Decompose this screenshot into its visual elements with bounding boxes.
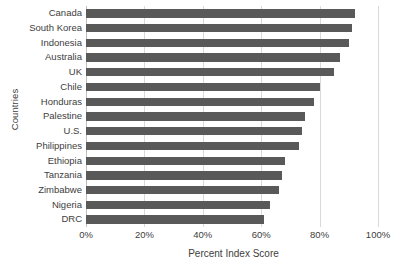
bar [86,39,349,47]
x-axis-tick-labels: 0%20%40%60%80%100% [0,229,403,243]
bar-row [86,6,378,21]
bar [86,215,264,223]
y-axis-tick-label: Zimbabwe [0,185,82,195]
y-axis-tick-label: U.S. [0,126,82,136]
bar [86,142,299,150]
y-axis-tick-label: Canada [0,8,82,18]
plot-area [86,6,378,227]
x-axis-tick-label: 100% [355,229,401,240]
y-axis-tick-label: DRC [0,214,82,224]
y-axis-tick-label: South Korea [0,23,82,33]
x-axis-tick-label: 60% [238,229,284,240]
bar-row [86,212,378,227]
gridline-100 [378,6,379,227]
bar-row [86,21,378,36]
y-axis-tick-label: Nigeria [0,200,82,210]
bar-row [86,65,378,80]
bar [86,53,340,61]
bar-row [86,183,378,198]
y-axis-tick-label: Indonesia [0,38,82,48]
bar-chart: Countries CanadaSouth KoreaIndonesiaAust… [0,0,403,273]
bar-row [86,168,378,183]
bar-row [86,50,378,65]
bar-row [86,153,378,168]
x-axis-title: Percent Index Score [0,248,403,259]
bar [86,9,355,17]
bar [86,112,305,120]
bar-row [86,80,378,95]
bar [86,201,270,209]
x-axis-tick-label: 20% [121,229,167,240]
x-axis-tick-label: 0% [63,229,109,240]
bar [86,98,314,106]
bar-row [86,109,378,124]
x-axis-tick-label: 80% [297,229,343,240]
bar [86,171,282,179]
bar [86,83,320,91]
x-axis-tick-label: 40% [180,229,226,240]
bar-row [86,139,378,154]
bar [86,24,352,32]
bar [86,68,334,76]
bar-row [86,124,378,139]
y-axis-tick-label: Chile [0,82,82,92]
y-axis-tick-label: Philippines [0,141,82,151]
y-axis-tick-labels: CanadaSouth KoreaIndonesiaAustraliaUKChi… [0,6,82,227]
y-axis-tick-label: Palestine [0,111,82,121]
bar [86,186,279,194]
bar-row [86,35,378,50]
y-axis-tick-label: Australia [0,52,82,62]
bar [86,157,285,165]
bars-group [86,6,378,227]
bar [86,127,302,135]
bar-row [86,94,378,109]
y-axis-tick-label: Tanzania [0,170,82,180]
y-axis-tick-label: Honduras [0,97,82,107]
y-axis-tick-label: Ethiopia [0,156,82,166]
y-axis-tick-label: UK [0,67,82,77]
bar-row [86,198,378,213]
